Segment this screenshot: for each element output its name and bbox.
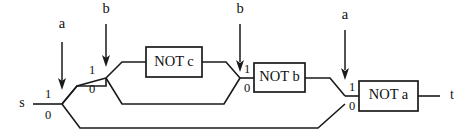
branch-3-bottom-digit: 0 bbox=[244, 81, 250, 95]
branch-2-top-digit: 1 bbox=[89, 63, 95, 77]
arrow-4-label: a bbox=[342, 6, 349, 22]
wire-notb-to-branch4 bbox=[305, 78, 345, 96]
wire-bottom-bypass bbox=[62, 104, 345, 128]
input-arrow-1: a bbox=[58, 15, 66, 90]
branch-4-bottom-digit: 0 bbox=[349, 99, 355, 113]
branch-3-top-digit: 1 bbox=[244, 62, 250, 76]
branch-2-bottom-digit: 0 bbox=[89, 82, 95, 96]
gate-not-c[interactable]: NOT c bbox=[146, 47, 202, 77]
wire-notc-to-branch3 bbox=[202, 62, 240, 78]
gate-not-b[interactable]: NOT b bbox=[254, 63, 305, 92]
arrow-3-label: b bbox=[236, 0, 243, 16]
wire-branch2-lower-bypass bbox=[106, 78, 240, 104]
terminal-end-label: t bbox=[450, 87, 454, 102]
wire-branch2-upper-to-notc bbox=[106, 62, 146, 78]
gate-not-a[interactable]: NOT a bbox=[359, 81, 418, 111]
input-arrow-2: b bbox=[102, 0, 110, 67]
gate-not-c-label: NOT c bbox=[154, 53, 194, 69]
gate-not-a-label: NOT a bbox=[369, 86, 409, 102]
wire-branch1-upper bbox=[62, 78, 106, 104]
arrow-2-label: b bbox=[102, 0, 109, 16]
terminal-start-label: s bbox=[19, 95, 24, 110]
input-arrow-3: b bbox=[236, 0, 244, 72]
input-arrow-4: a bbox=[341, 6, 349, 80]
branch-1-top-digit: 1 bbox=[45, 87, 51, 101]
gate-not-b-label: NOT b bbox=[259, 68, 299, 84]
branch-4-top-digit: 1 bbox=[349, 80, 355, 94]
diagram-canvas: a b b a NOT c NOT b NOT a bbox=[0, 0, 467, 136]
branch-2-digits: 1 0 bbox=[89, 63, 95, 96]
wire-branch1-to-branch2 bbox=[62, 78, 106, 104]
branch-1-bottom-digit: 0 bbox=[45, 108, 51, 122]
arrow-1-label: a bbox=[59, 15, 66, 31]
logic-circuit-diagram: a b b a NOT c NOT b NOT a bbox=[0, 0, 467, 136]
